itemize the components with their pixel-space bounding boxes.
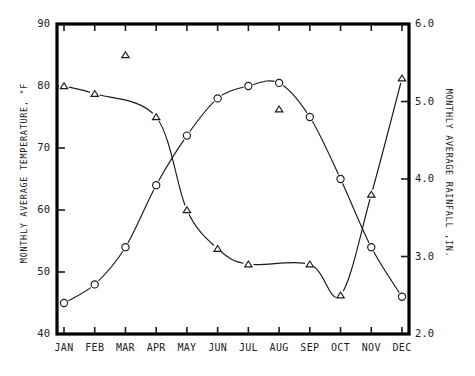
plot-area: JAN: 45 °FFEB: 48 °FMAR: 54 °FAPR: 64 °F… [0,0,475,376]
temperature-marker: FEB: 48 °F [91,281,98,288]
y-axis-left-tick-label: 70 [16,141,50,153]
temperature-marker: APR: 64 °F [153,182,160,189]
rainfall-curve [64,78,402,297]
y-axis-left-tick-label: 50 [16,265,50,277]
temperature-marker: MAY: 72 °F [183,132,190,139]
y-axis-right-tick-label: 2.0 [415,327,455,339]
temperature-marker: JAN: 45 °F [60,299,67,306]
y-axis-left-tick-label: 90 [16,17,50,29]
temperature-marker: JUL: 80 °F [245,82,252,89]
chart-figure: MONTHLY AVERAGE TEMPERATURE, °F MONTHLY … [0,0,475,376]
y-axis-left-tick-label: 40 [16,327,50,339]
y-axis-left-tick-label: 60 [16,203,50,215]
y-axis-right-tick-label: 4.0 [415,172,455,184]
y-axis-right-tick-label: 5.0 [415,95,455,107]
y-axis-right-tick-label: 6.0 [415,17,455,29]
y-axis-left-tick-label: 80 [16,79,50,91]
temperature-marker: MAR: 54 °F [122,244,129,251]
y-axis-right-tick-label: 3.0 [415,250,455,262]
temperature-marker: OCT: 65 °F [337,175,344,182]
plot-frame [57,24,409,334]
temperature-marker: SEP: 75 °F [306,113,313,120]
temperature-marker: JUN: 78 °F [214,95,221,102]
temperature-marker: DEC: 46 °F [398,293,405,300]
temperature-marker: AUG: 80.5 °F [275,79,282,86]
temperature-marker: NOV: 54 °F [368,244,375,251]
x-axis-tick-label: DEC [382,342,422,353]
